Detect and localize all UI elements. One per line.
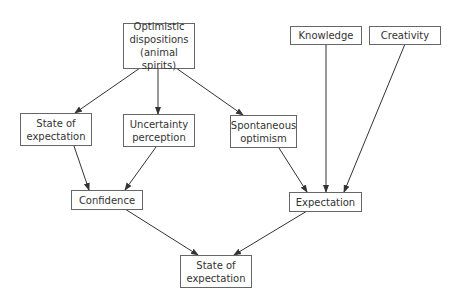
edge-confidence-to-state-bottom <box>125 209 198 255</box>
node-spontaneous-optimism: Spontaneous optimism <box>230 115 297 148</box>
node-knowledge: Knowledge <box>290 26 362 45</box>
node-confidence: Confidence <box>71 190 143 210</box>
edge-optimistic-to-state-left <box>75 68 140 113</box>
edge-state-left-to-confidence <box>74 146 89 190</box>
edge-expectation-to-state-bottom <box>234 211 307 255</box>
node-optimistic-dispositions: Optimistic dispositions (animal spirits) <box>123 23 195 69</box>
edge-creativity-to-expectation <box>344 44 405 192</box>
node-uncertainty-perception: Uncertainty perception <box>123 114 195 147</box>
edge-spontaneous-to-expectation <box>279 148 307 192</box>
edge-uncertainty-to-confidence <box>125 147 156 190</box>
edge-optimistic-to-spontaneous <box>176 68 243 115</box>
node-state-of-expectation-left: State of expectation <box>20 113 92 146</box>
node-expectation: Expectation <box>289 192 362 212</box>
node-state-of-expectation-bottom: State of expectation <box>180 255 252 288</box>
node-creativity: Creativity <box>369 26 441 45</box>
